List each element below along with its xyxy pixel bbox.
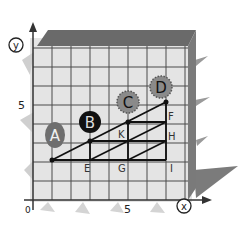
svg-text:G: G [118, 163, 126, 174]
x-tick-label-5: 5 [124, 203, 131, 216]
svg-text:I: I [170, 163, 173, 174]
svg-text:K: K [118, 129, 125, 140]
svg-text:D: D [155, 79, 167, 97]
box-side [188, 30, 196, 200]
box-top [37, 30, 196, 46]
point-C-marker: C [117, 91, 139, 113]
y-axis-label: y [9, 38, 23, 52]
svg-text:C: C [123, 94, 133, 112]
origin-label: 0 [25, 205, 31, 215]
x-axis-label: x [177, 199, 191, 213]
point-A-marker: A [45, 122, 65, 148]
coordinate-diagram: y x 0 5 5 A B C D [0, 0, 250, 229]
point-B-marker: B [79, 111, 101, 133]
svg-text:E: E [84, 163, 90, 174]
y-tick-label-5: 5 [18, 99, 25, 112]
svg-text:y: y [13, 40, 19, 51]
svg-text:x: x [181, 201, 187, 212]
shadow-wedge [194, 166, 238, 198]
svg-text:H: H [168, 131, 176, 142]
svg-text:F: F [168, 111, 174, 122]
point-D-marker: D [150, 76, 172, 98]
svg-text:B: B [85, 114, 95, 132]
svg-text:A: A [50, 127, 61, 145]
